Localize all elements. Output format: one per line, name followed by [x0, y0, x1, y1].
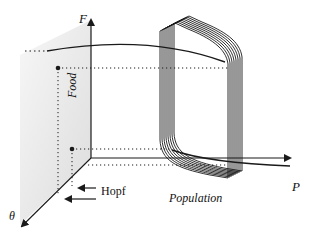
theta-axis-symbol: θ: [9, 210, 15, 222]
limit-cycles: [160, 16, 242, 178]
hopf-label: Hopf: [101, 185, 126, 197]
bifurcation-diagram: F Food P Population θ Hopf: [0, 0, 313, 238]
equilibrium-point-lower: [70, 147, 75, 152]
food-axis-symbol: F: [79, 12, 87, 25]
equilibrium-point-upper: [56, 66, 61, 71]
population-axis-symbol: P: [292, 180, 300, 193]
population-axis-label: Population: [169, 192, 222, 204]
food-axis-label: Food: [66, 73, 78, 98]
